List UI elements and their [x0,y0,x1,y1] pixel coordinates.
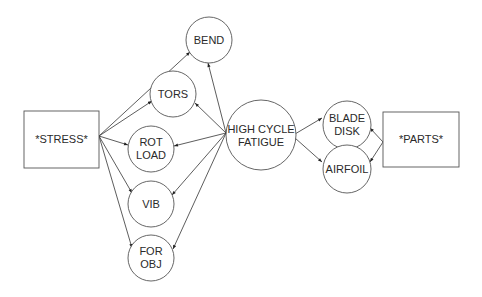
fatigue-diagram: *STRESS* *PARTS* BEND TORS ROT LOAD VIB … [0,0,482,297]
airfoil-node: AIRFOIL [323,145,371,193]
airfoil-label: AIRFOIL [326,163,369,175]
hcf-label-line2: FATIGUE [238,136,284,148]
bend-node: BEND [186,17,232,63]
vib-label: VIB [142,198,160,210]
edge-parts-bladedisk [370,128,383,142]
rotload-label-line1: ROT [139,136,163,148]
forobj-label-line1: FOR [139,245,162,257]
rotload-node: ROT LOAD [128,126,174,172]
parts-label: *PARTS* [399,133,444,145]
stress-label: *STRESS* [35,133,88,145]
forobj-label-line2: OBJ [140,258,161,270]
hcf-node: HIGH CYCLE FATIGUE [226,100,296,170]
edge-hcf-tors [195,103,226,133]
parts-node: *PARTS* [383,112,459,167]
bend-label: BEND [194,34,225,46]
edge-stress-forobj [99,136,132,248]
hcf-label-line1: HIGH CYCLE [227,123,294,135]
forobj-node: FOR OBJ [128,235,174,281]
edge-hcf-bend [208,63,226,133]
bladedisk-label-line2: DISK [334,125,360,137]
edge-parts-airfoil [370,142,383,162]
edge-hcf-rotload [174,133,226,146]
bladedisk-node: BLADE DISK [323,101,371,149]
edge-hcf-bladedisk [295,118,322,134]
vib-node: VIB [128,181,174,227]
tors-label: TORS [158,88,188,100]
edge-hcf-vib [172,133,226,195]
tors-node: TORS [150,71,196,117]
bladedisk-label-line1: BLADE [329,112,365,124]
stress-node: *STRESS* [24,111,99,168]
edge-hcf-airfoil [295,138,322,162]
edge-hcf-forobj [173,133,226,249]
rotload-label-line2: LOAD [136,149,166,161]
